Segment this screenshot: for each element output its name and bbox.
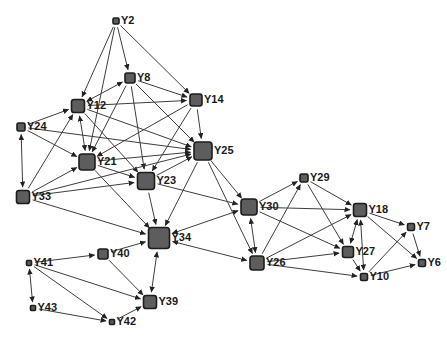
node-Y18[interactable] [354, 204, 367, 217]
edge-Y23-Y34 [149, 193, 156, 225]
network-diagram: Y2Y8Y12Y14Y24Y21Y25Y23Y33Y34Y40Y41Y43Y42… [0, 0, 447, 343]
edge-Y25-Y30 [211, 161, 242, 198]
node-label-Y30: Y30 [259, 200, 279, 212]
node-Y8[interactable] [125, 73, 135, 83]
node-Y41[interactable] [27, 261, 32, 266]
node-label-Y42: Y42 [117, 315, 137, 327]
node-Y29[interactable] [300, 174, 308, 182]
edge-Y30-Y26 [251, 218, 256, 252]
node-label-Y8: Y8 [137, 71, 150, 83]
node-label-Y25: Y25 [214, 144, 234, 156]
node-Y10[interactable] [361, 274, 368, 281]
node-Y42[interactable] [110, 320, 115, 325]
edge-Y2-Y12 [82, 27, 113, 97]
edge-Y14-Y23 [152, 108, 191, 171]
edge-Y29-Y18 [311, 182, 352, 205]
edge-Y30-Y34 [172, 211, 238, 234]
edge-Y24-Y25 [28, 128, 190, 149]
node-Y33[interactable] [17, 191, 30, 204]
edge-Y23-Y30 [158, 184, 238, 204]
node-label-Y23: Y23 [157, 174, 177, 186]
edge-Y2-Y8 [118, 27, 128, 69]
node-label-Y18: Y18 [369, 203, 389, 215]
node-label-Y26: Y26 [266, 256, 286, 268]
node-label-Y2: Y2 [121, 14, 134, 26]
edge-Y40-Y39 [109, 260, 143, 295]
network-diagram-canvas: Y2Y8Y12Y14Y24Y21Y25Y23Y33Y34Y40Y41Y43Y42… [0, 0, 447, 343]
edge-Y27-Y10 [353, 260, 360, 272]
edge-Y21-Y23 [98, 166, 135, 178]
node-label-Y40: Y40 [110, 247, 130, 259]
node-Y12[interactable] [72, 100, 85, 113]
edge-Y33-Y34 [33, 200, 146, 234]
node-label-Y27: Y27 [356, 245, 376, 257]
edge-Y8-Y25 [136, 84, 194, 142]
node-label-Y29: Y29 [310, 171, 330, 183]
node-Y7[interactable] [408, 224, 415, 231]
node-label-Y34: Y34 [172, 231, 192, 243]
edge-Y39-Y34 [151, 252, 157, 292]
node-Y40[interactable] [98, 249, 108, 259]
node-Y6[interactable] [419, 260, 426, 267]
node-label-Y10: Y10 [370, 270, 390, 282]
edge-Y30-Y29 [259, 182, 297, 202]
edge-Y12-Y25 [87, 109, 191, 146]
edge-Y29-Y27 [308, 184, 344, 244]
node-Y25[interactable] [194, 142, 212, 160]
node-Y21[interactable] [79, 154, 95, 170]
node-Y23[interactable] [138, 173, 155, 190]
node-label-Y12: Y12 [87, 99, 107, 111]
node-label-Y33: Y33 [32, 190, 52, 202]
edge-Y24-Y21 [28, 131, 77, 157]
node-Y39[interactable] [144, 296, 157, 309]
node-label-Y21: Y21 [97, 155, 117, 167]
edge-Y26-Y34 [173, 242, 247, 261]
edge-Y23-Y25 [157, 157, 192, 176]
edge-Y7-Y6 [413, 234, 420, 257]
node-Y14[interactable] [190, 94, 202, 106]
edge-Y24-Y33 [21, 135, 23, 188]
node-label-Y7: Y7 [417, 220, 430, 232]
node-label-Y24: Y24 [27, 120, 47, 132]
node-label-Y14: Y14 [204, 93, 224, 105]
edge-Y14-Y25 [197, 109, 201, 138]
node-Y2[interactable] [113, 18, 119, 24]
node-Y34[interactable] [149, 228, 170, 249]
node-label-Y6: Y6 [428, 256, 441, 268]
edge-Y8-Y14 [138, 81, 187, 97]
node-Y26[interactable] [250, 256, 264, 270]
edge-Y41-Y43 [30, 269, 33, 302]
node-label-Y41: Y41 [34, 256, 54, 268]
node-Y27[interactable] [343, 247, 354, 258]
edge-Y21-Y12 [80, 116, 86, 151]
node-Y30[interactable] [241, 199, 257, 215]
edge-Y25-Y34 [165, 162, 197, 225]
node-label-Y43: Y43 [38, 301, 58, 313]
node-label-Y39: Y39 [159, 295, 179, 307]
node-Y24[interactable] [17, 123, 25, 131]
edge-Y14-Y21 [97, 105, 188, 157]
edge-Y41-Y39 [35, 265, 141, 299]
edge-Y27-Y18 [351, 220, 358, 244]
node-Y43[interactable] [31, 306, 36, 311]
